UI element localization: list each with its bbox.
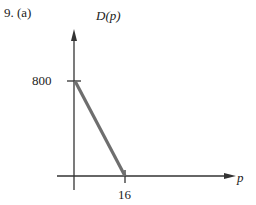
x-axis-arrow-icon [224,173,236,179]
y-axis-arrow-icon [71,29,77,41]
chart-plot-area [0,0,256,205]
demand-line [75,81,125,176]
